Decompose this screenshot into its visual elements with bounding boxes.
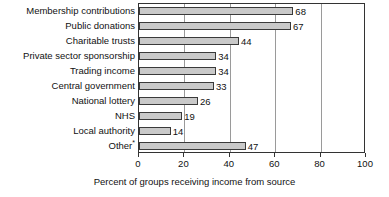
category-label: Local authority xyxy=(0,126,135,136)
bar-value-label: 68 xyxy=(293,4,306,19)
bar-value-label: 67 xyxy=(291,19,304,34)
bar-value-label: 34 xyxy=(216,49,229,64)
plot-area: 68674434343326191447 xyxy=(138,3,365,153)
bar-chart: Membership contributionsPublic donations… xyxy=(0,0,389,197)
bar xyxy=(139,82,214,90)
category-label: Membership contributions xyxy=(0,6,135,16)
category-label: Charitable trusts xyxy=(0,36,135,46)
bar-value-label: 33 xyxy=(214,79,227,94)
bar-row: 19 xyxy=(139,109,366,124)
bar-row: 67 xyxy=(139,19,366,34)
bar-value-label: 47 xyxy=(246,139,259,154)
category-label: Central government xyxy=(0,81,135,91)
x-axis: 020406080100 xyxy=(138,153,365,175)
bar-row: 34 xyxy=(139,64,366,79)
x-tick-20 xyxy=(183,153,184,157)
x-tick-label: 0 xyxy=(135,158,140,169)
x-tick-40 xyxy=(229,153,230,157)
bar xyxy=(139,112,182,120)
category-label: Private sector sponsorship xyxy=(0,51,135,61)
bar-row: 14 xyxy=(139,124,366,139)
bar-row: 68 xyxy=(139,4,366,19)
bar xyxy=(139,22,291,30)
category-label: Other* xyxy=(0,141,135,151)
x-tick-label: 80 xyxy=(314,158,325,169)
bar-row: 33 xyxy=(139,79,366,94)
x-tick-label: 20 xyxy=(178,158,189,169)
category-label: NHS xyxy=(0,111,135,121)
x-tick-label: 60 xyxy=(269,158,280,169)
category-label: Public donations xyxy=(0,21,135,31)
bar-value-label: 19 xyxy=(182,109,195,124)
x-tick-60 xyxy=(274,153,275,157)
bar-row: 34 xyxy=(139,49,366,64)
bar-value-label: 44 xyxy=(239,34,252,49)
x-tick-0 xyxy=(138,153,139,157)
x-tick-label: 100 xyxy=(357,158,373,169)
bar-value-label: 14 xyxy=(171,124,184,139)
bar xyxy=(139,37,239,45)
bar-value-label: 26 xyxy=(198,94,211,109)
footnote-marker: * xyxy=(132,138,135,145)
bar xyxy=(139,97,198,105)
bar xyxy=(139,7,293,15)
x-axis-title: Percent of groups receiving income from … xyxy=(0,176,389,188)
category-axis: Membership contributionsPublic donations… xyxy=(0,3,135,153)
bar-value-label: 34 xyxy=(216,64,229,79)
bar xyxy=(139,142,246,150)
x-tick-label: 40 xyxy=(224,158,235,169)
bar xyxy=(139,127,171,135)
bar xyxy=(139,52,216,60)
x-tick-80 xyxy=(320,153,321,157)
bar-row: 47 xyxy=(139,139,366,154)
category-label: National lottery xyxy=(0,96,135,106)
bar-row: 44 xyxy=(139,34,366,49)
category-label: Trading income xyxy=(0,66,135,76)
bar xyxy=(139,67,216,75)
bar-row: 26 xyxy=(139,94,366,109)
x-tick-100 xyxy=(365,153,366,157)
bars-layer: 68674434343326191447 xyxy=(139,4,364,152)
